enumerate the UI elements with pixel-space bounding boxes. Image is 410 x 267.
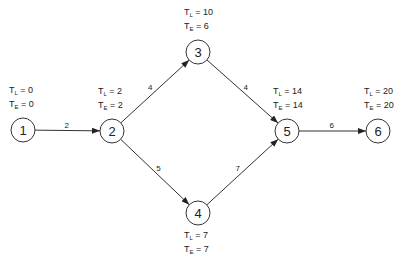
latest-time-label-6: TL = 20: [364, 87, 393, 97]
node-number-4: 4: [194, 206, 201, 221]
edge-weight-2-4: 5: [156, 164, 161, 173]
node-number-6: 6: [374, 124, 381, 139]
earliest-time-label-4: TE = 7: [184, 245, 209, 255]
edge-2-3: [121, 60, 189, 123]
node-number-2: 2: [108, 124, 115, 139]
network-diagram: 245476 123456 TL = 0TE = 0TL = 2TE = 2TL…: [0, 0, 410, 267]
node-number-3: 3: [194, 45, 201, 60]
earliest-time-label-5: TE = 14: [273, 101, 303, 111]
edge-weight-1-2: 2: [65, 121, 70, 130]
node-number-1: 1: [19, 123, 26, 138]
latest-time-label-4: TL = 7: [184, 231, 208, 241]
earliest-time-label-2: TE = 2: [98, 101, 123, 111]
edge-2-4: [121, 139, 190, 204]
edge-4-5: [207, 139, 278, 205]
latest-time-label-5: TL = 14: [273, 87, 302, 97]
node-number-5: 5: [283, 124, 290, 139]
latest-time-label-2: TL = 2: [98, 87, 122, 97]
earliest-time-label-1: TE = 0: [9, 100, 34, 110]
diagram-graphics: 245476 123456: [0, 0, 410, 267]
latest-time-label-3: TL = 10: [184, 8, 213, 18]
earliest-time-label-6: TE = 20: [364, 101, 394, 111]
edge-weight-3-5: 4: [243, 83, 248, 92]
edge-weight-2-3: 4: [148, 83, 153, 92]
latest-time-label-1: TL = 0: [9, 86, 33, 96]
edge-1-2: [35, 130, 100, 131]
earliest-time-label-3: TE = 6: [184, 22, 209, 32]
edge-weight-5-6: 6: [330, 121, 335, 130]
edge-weight-4-5: 7: [235, 164, 240, 173]
